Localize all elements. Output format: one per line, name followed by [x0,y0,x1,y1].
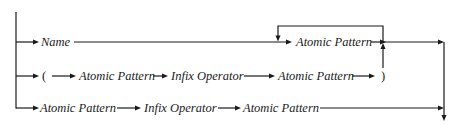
arrow-icon [438,106,444,111]
arrow-icon [286,40,292,45]
infix-operator-label: Infix Operator [143,101,217,115]
name-label: Name [40,35,71,49]
arrow-icon [135,106,141,111]
arrow-icon [162,74,168,79]
syntax-diagram: Name Atomic Pattern ( Atomic Pattern Inf… [0,0,457,126]
atomic-pattern-label: Atomic Pattern [295,35,372,49]
arrow-icon [235,106,241,111]
arrow-down-icon [442,115,447,121]
atomic-pattern-label: Atomic Pattern [242,101,319,115]
arrow-down-icon [276,36,281,42]
arrow-icon [70,74,76,79]
atomic-pattern-label: Atomic Pattern [277,69,354,83]
arrow-icon [33,40,39,45]
close-paren-label: ) [381,69,385,83]
arrow-icon [269,74,275,79]
arrow-icon [438,40,444,45]
open-paren-label: ( [42,69,46,83]
arrow-icon [369,74,375,79]
atomic-pattern-label: Atomic Pattern [78,69,155,83]
atomic-pattern-label: Atomic Pattern [39,101,116,115]
arrow-icon [33,74,39,79]
arrow-icon [33,106,39,111]
infix-operator-label: Infix Operator [170,69,244,83]
